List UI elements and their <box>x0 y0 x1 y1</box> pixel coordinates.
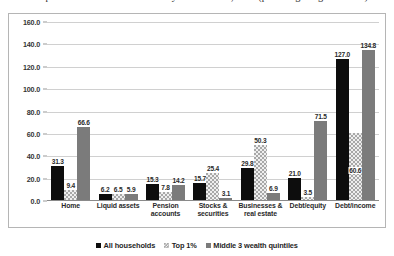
bar-slot: 127.0 <box>336 22 349 201</box>
y-axis-tick-label: 160.0 <box>23 18 40 27</box>
bar-slot: 5.9 <box>125 22 138 201</box>
bar-slot: 66.6 <box>77 22 90 201</box>
x-axis-category-label: Stocks &securities <box>189 201 236 225</box>
legend-label: Top 1% <box>172 241 197 250</box>
bar[interactable]: 15.7 <box>193 183 206 201</box>
bar-group: 15.725.43.1 <box>189 22 236 201</box>
chart-legend: All householdsTop 1%Middle 3 wealth quin… <box>0 241 394 250</box>
x-axis-category-label: Businesses &real estate <box>237 201 284 225</box>
bar-slot: 3.1 <box>219 22 232 201</box>
bar-value-label: 14.2 <box>173 177 185 184</box>
bar-value-label: 5.9 <box>127 186 136 193</box>
bar-group: 127.060.6134.8 <box>332 22 379 201</box>
x-axis-category-label: Home <box>47 201 94 225</box>
bar-slot: 6.2 <box>99 22 112 201</box>
bar-slot: 6.5 <box>112 22 125 201</box>
bar-slot: 31.3 <box>51 22 64 201</box>
bar-slot: 25.4 <box>206 22 219 201</box>
bar[interactable]: 29.8 <box>241 168 254 201</box>
bar-group-bars: 6.26.55.9 <box>94 22 141 201</box>
bar[interactable]: 66.6 <box>77 127 90 202</box>
bar-slot: 6.9 <box>267 22 280 201</box>
bar-slot: 29.8 <box>241 22 254 201</box>
bar-slot: 15.7 <box>193 22 206 201</box>
legend-item[interactable]: Middle 3 wealth quintiles <box>206 241 298 250</box>
chart-title: Composition of Household Wealth by Wealt… <box>0 0 394 2</box>
y-axis-tick-label: 40.0 <box>27 152 40 161</box>
bar-group: 15.37.814.2 <box>142 22 189 201</box>
bar-value-label: 7.8 <box>161 184 170 191</box>
bar-value-label: 66.6 <box>78 119 90 126</box>
bar[interactable]: 14.2 <box>172 185 185 201</box>
bar-value-label: 134.8 <box>360 42 376 49</box>
bar-value-label: 15.7 <box>194 175 206 182</box>
bar[interactable]: 15.3 <box>146 184 159 201</box>
bar[interactable]: 71.5 <box>314 121 327 201</box>
bar-value-label: 127.0 <box>334 51 350 58</box>
bar-value-label: 50.3 <box>254 137 266 144</box>
bar-slot: 7.8 <box>159 22 172 201</box>
bar-slot: 14.2 <box>172 22 185 201</box>
bar-slot: 15.3 <box>146 22 159 201</box>
bar-value-label: 29.8 <box>241 160 253 167</box>
bar-value-label: 3.1 <box>222 190 231 197</box>
y-axis-tick-label: 0.0 <box>31 197 40 206</box>
bar[interactable]: 127.0 <box>336 59 349 201</box>
y-axis: 0.020.040.060.080.0100.0120.0140.0160.0 <box>9 14 43 227</box>
bar-group-bars: 127.060.6134.8 <box>332 22 379 201</box>
y-axis-tick-label: 80.0 <box>27 107 40 116</box>
bar-group-bars: 15.37.814.2 <box>142 22 189 201</box>
plot-area: 31.39.466.66.26.55.915.37.814.215.725.43… <box>47 22 379 201</box>
bar-group: 31.39.466.6 <box>47 22 94 201</box>
bar-value-label: 21.0 <box>289 170 301 177</box>
bar-group: 6.26.55.9 <box>94 22 141 201</box>
legend-label: All households <box>104 241 156 250</box>
bar-value-label: 3.5 <box>304 189 313 196</box>
legend-swatch-icon <box>164 243 169 248</box>
bar[interactable]: 50.3 <box>254 145 267 201</box>
bar[interactable]: 31.3 <box>51 166 64 201</box>
y-axis-tick-label: 120.0 <box>23 62 40 71</box>
x-axis-category-label: Debt/income <box>332 201 379 225</box>
x-axis-category-label: Pensionaccounts <box>142 201 189 225</box>
bar-groups: 31.39.466.66.26.55.915.37.814.215.725.43… <box>47 22 379 201</box>
chart-container: Composition of Household Wealth by Wealt… <box>0 0 394 256</box>
bar[interactable]: 21.0 <box>288 178 301 201</box>
bar-value-label: 31.3 <box>52 158 64 165</box>
y-axis-tick-label: 100.0 <box>23 85 40 94</box>
bar-value-label: 71.5 <box>315 113 327 120</box>
bar[interactable]: 25.4 <box>206 173 219 201</box>
x-axis-category-label: Debt/equity <box>284 201 331 225</box>
legend-swatch-icon <box>206 243 211 248</box>
bar-value-label: 6.2 <box>101 186 110 193</box>
plot-frame: 0.020.040.060.080.0100.0120.0140.0160.0 … <box>8 13 386 228</box>
y-axis-tick-label: 60.0 <box>27 129 40 138</box>
bar-value-label: 6.9 <box>269 185 278 192</box>
y-axis-tick-label: 140.0 <box>23 40 40 49</box>
bar-group-bars: 21.03.571.5 <box>284 22 331 201</box>
bar[interactable]: 134.8 <box>362 50 375 201</box>
legend-item[interactable]: Top 1% <box>164 241 197 250</box>
bar-slot: 71.5 <box>314 22 327 201</box>
bar-slot: 9.4 <box>64 22 77 201</box>
bar-group-bars: 15.725.43.1 <box>189 22 236 201</box>
bar[interactable]: 60.6 <box>349 133 362 201</box>
y-axis-tick-label: 20.0 <box>27 174 40 183</box>
x-axis-category-label: Liquid assets <box>94 201 141 225</box>
bar-slot: 50.3 <box>254 22 267 201</box>
bar-value-label: 9.4 <box>66 182 75 189</box>
bar-group-bars: 31.39.466.6 <box>47 22 94 201</box>
bar-slot: 3.5 <box>301 22 314 201</box>
bar-slot: 134.8 <box>362 22 375 201</box>
bar-value-label: 25.4 <box>207 165 219 172</box>
legend-item[interactable]: All households <box>96 241 155 250</box>
bar-slot: 21.0 <box>288 22 301 201</box>
bar-group: 29.850.36.9 <box>237 22 284 201</box>
bar-group-bars: 29.850.36.9 <box>237 22 284 201</box>
bar-value-label: 60.6 <box>349 167 362 174</box>
bar-value-label: 15.3 <box>147 176 159 183</box>
bar-group: 21.03.571.5 <box>284 22 331 201</box>
x-axis-labels: HomeLiquid assetsPensionaccountsStocks &… <box>47 201 379 225</box>
legend-swatch-icon <box>96 243 101 248</box>
legend-label: Middle 3 wealth quintiles <box>213 241 298 250</box>
